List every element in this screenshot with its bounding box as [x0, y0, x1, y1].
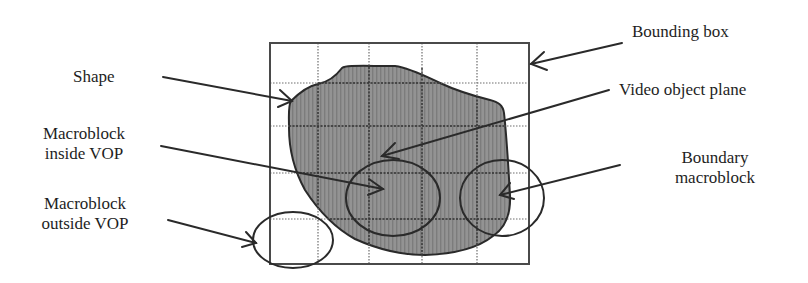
label-video-object-plane: Video object plane	[619, 80, 746, 100]
label-macroblock-inside-line1: Macroblock	[30, 124, 138, 144]
label-video-object-plane-text: Video object plane	[619, 80, 746, 100]
macroblock-outside-vop-ellipse	[253, 212, 333, 268]
bounding-box-arrow	[531, 43, 622, 70]
label-boundary-line2: macroblock	[662, 168, 768, 188]
label-macroblock-outside-vop: Macroblock outside VOP	[30, 194, 140, 234]
label-bounding-box: Bounding box	[632, 22, 729, 42]
label-macroblock-inside-line2: inside VOP	[30, 144, 138, 164]
label-bounding-box-text: Bounding box	[632, 22, 729, 42]
label-macroblock-inside-vop: Macroblock inside VOP	[30, 124, 138, 164]
shape-arrow	[163, 77, 292, 107]
boundary-macroblock-arrow	[500, 165, 620, 199]
label-boundary-macroblock: Boundary macroblock	[662, 148, 768, 188]
label-shape-text: Shape	[73, 67, 115, 87]
label-macroblock-outside-line2: outside VOP	[30, 214, 140, 234]
label-shape: Shape	[73, 67, 115, 87]
macroblock-outside-vop-arrow	[168, 220, 256, 247]
label-boundary-line1: Boundary	[662, 148, 768, 168]
label-macroblock-outside-line1: Macroblock	[30, 194, 140, 214]
